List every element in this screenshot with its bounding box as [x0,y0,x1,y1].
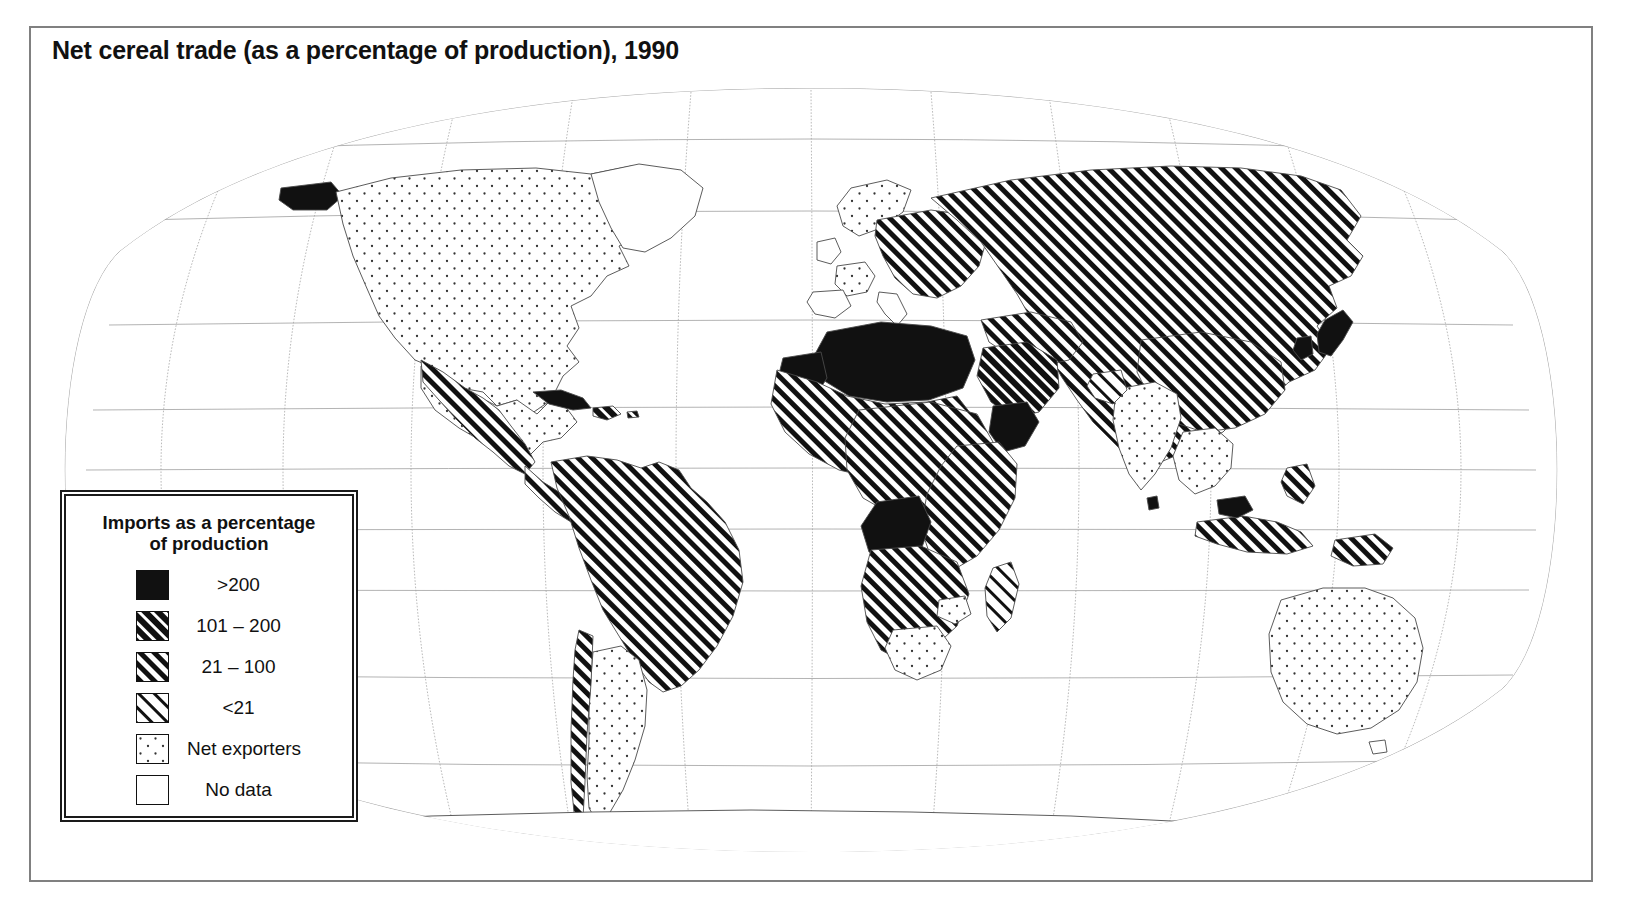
region-sri-lanka [1147,496,1159,510]
swatch-101-200 [136,611,169,641]
region-madagascar [985,562,1019,632]
region-malaysia [1217,496,1253,518]
legend-inner: Imports as a percentage of production >2… [66,496,352,816]
map-figure-page: Net cereal trade (as a percentage of pro… [0,0,1627,912]
region-iberia-italy [807,290,851,318]
region-australia [1269,588,1423,734]
hatch-dense-icon [137,612,168,640]
region-southeast-asia [1173,428,1233,494]
swatch-net-exporters [136,734,169,764]
region-south-africa [885,626,951,680]
region-new-zealand [1481,716,1507,742]
region-hispaniola [593,406,621,420]
legend-row-net-exporters: Net exporters [76,729,342,770]
legend-label-net-exporters: Net exporters [169,738,342,760]
legend-rows: >200 101 – 200 2 [76,565,342,811]
region-new-zealand-south [1441,738,1481,762]
legend-row-over-200: >200 [76,565,342,606]
hatch-light-icon [137,694,168,722]
legend-label-21-100: 21 – 100 [169,656,342,678]
landmasses [151,164,1507,860]
legend-label-over-200: >200 [169,574,342,596]
page-title: Net cereal trade (as a percentage of pro… [52,36,679,65]
legend-title-line1: Imports as a percentage [76,512,342,533]
legend-title: Imports as a percentage of production [76,512,342,555]
region-tasmania [1369,740,1387,754]
swatch-no-data [136,775,169,805]
region-uk [817,238,841,264]
legend-label-101-200: 101 – 200 [169,615,342,637]
legend-row-under-21: <21 [76,688,342,729]
legend-row-21-100: 21 – 100 [76,647,342,688]
region-italy [877,292,907,326]
dot-stipple-icon [137,735,168,763]
region-algeria-libya-egypt [815,322,975,402]
swatch-over-200 [136,570,169,600]
region-india [1113,382,1181,490]
swatch-21-100 [136,652,169,682]
region-puerto-rico [627,411,639,418]
region-papua-new-guinea [1331,534,1393,566]
region-philippines [1281,464,1315,504]
region-alaska [279,182,343,210]
legend-label-under-21: <21 [169,697,342,719]
legend-row-101-200: 101 – 200 [76,606,342,647]
legend-label-no-data: No data [169,779,342,801]
legend-row-no-data: No data [76,770,342,811]
legend-box: Imports as a percentage of production >2… [64,494,354,818]
swatch-under-21 [136,693,169,723]
region-indonesia [1195,516,1313,554]
legend-title-line2: of production [76,533,342,554]
hatch-medium-icon [137,653,168,681]
region-argentina [587,646,647,822]
